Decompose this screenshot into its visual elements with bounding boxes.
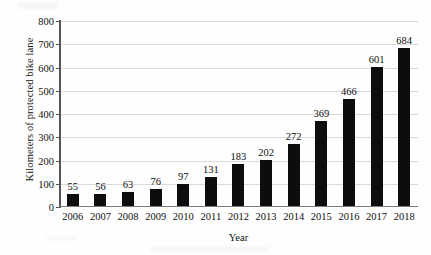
bar	[288, 144, 300, 207]
y-tick-label: 0	[49, 202, 54, 213]
y-axis-label: Kilometers of protected bike lane	[24, 10, 35, 210]
x-tick-label: 2015	[311, 211, 332, 222]
x-tick-label: 2012	[228, 211, 249, 222]
bar-chart: Kilometers of protected bike lane 010020…	[0, 0, 431, 255]
x-tick-label: 2007	[90, 211, 111, 222]
bar	[177, 184, 189, 207]
bar	[343, 99, 355, 207]
x-tick-label: 2008	[118, 211, 139, 222]
bar-value-label: 56	[95, 181, 106, 192]
plot-area: 0100200300400500600700800 55200656200763…	[59, 21, 418, 207]
x-tick-label: 2009	[145, 211, 166, 222]
bar-group: 2722014	[280, 21, 308, 207]
bar-value-label: 97	[178, 171, 189, 182]
bar-value-label: 63	[123, 179, 134, 190]
bar-group: 6012017	[363, 21, 391, 207]
x-tick-label: 2013	[256, 211, 277, 222]
x-tick-label: 2016	[338, 211, 359, 222]
y-tick-label: 400	[38, 109, 54, 120]
x-axis-label: Year	[59, 232, 418, 243]
bar	[150, 189, 162, 207]
bar-value-label: 466	[341, 86, 357, 97]
bar-value-label: 684	[396, 35, 412, 46]
bar-value-label: 272	[286, 131, 302, 142]
bar	[398, 48, 410, 207]
x-tick-label: 2006	[62, 211, 83, 222]
bar-value-label: 183	[231, 151, 247, 162]
y-tick-label: 500	[38, 85, 54, 96]
bar-group: 632008	[114, 21, 142, 207]
bar-value-label: 55	[68, 181, 79, 192]
x-tick-label: 2010	[173, 211, 194, 222]
bar-value-label: 131	[203, 164, 219, 175]
y-tick-label: 200	[38, 155, 54, 166]
bar	[232, 164, 244, 207]
bar-group: 562007	[87, 21, 115, 207]
bar-value-label: 601	[369, 54, 385, 65]
x-tick-label: 2014	[283, 211, 304, 222]
bar-group: 2022013	[252, 21, 280, 207]
bar-value-label: 76	[150, 176, 161, 187]
y-tick-label: 300	[38, 132, 54, 143]
bar	[260, 160, 272, 207]
bar	[315, 121, 327, 207]
bar-group: 552006	[59, 21, 87, 207]
bar-group: 762009	[142, 21, 170, 207]
y-tick-label: 800	[38, 16, 54, 27]
x-tick-label: 2017	[366, 211, 387, 222]
y-tick-label: 100	[38, 178, 54, 189]
bar	[205, 177, 217, 207]
bar-group: 972010	[169, 21, 197, 207]
bar	[371, 67, 383, 207]
y-axis-line	[59, 20, 61, 208]
bar-group: 1832012	[225, 21, 253, 207]
x-tick-label: 2011	[201, 211, 222, 222]
bar-value-label: 202	[258, 147, 274, 158]
bar-group: 4662016	[335, 21, 363, 207]
bar-group: 3692015	[308, 21, 336, 207]
scan-artifact	[18, 2, 58, 9]
bar-group: 6842018	[390, 21, 418, 207]
y-tick-label: 700	[38, 39, 54, 50]
x-axis-line	[59, 206, 418, 207]
y-tick-label: 600	[38, 62, 54, 73]
bar-value-label: 369	[313, 108, 329, 119]
scan-artifact	[150, 246, 270, 252]
bar-group: 1312011	[197, 21, 225, 207]
x-tick-label: 2018	[394, 211, 415, 222]
